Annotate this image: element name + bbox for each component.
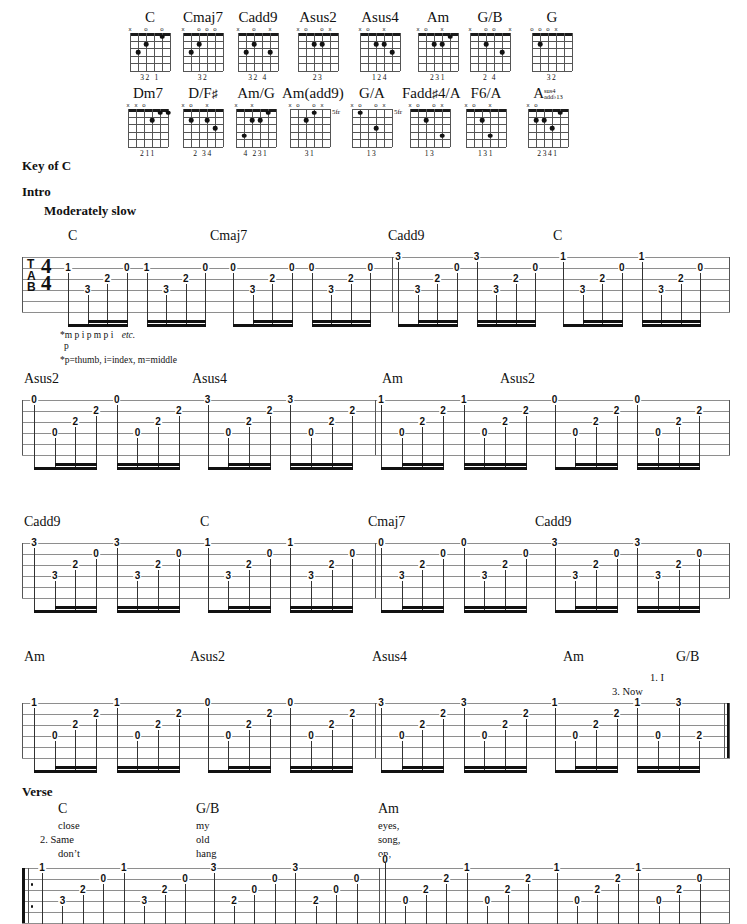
finger-dot xyxy=(534,118,539,123)
chord-diagram: G/Axoox5fr13 xyxy=(344,86,400,158)
tab-note: 0 xyxy=(573,896,581,906)
fingering-thumb: p xyxy=(64,341,69,351)
chord-diagram-name: C xyxy=(122,10,178,26)
finger-dot xyxy=(558,111,563,116)
tab-note: 2 xyxy=(103,274,111,284)
tab-note: 0 xyxy=(398,428,406,438)
tab-note: 2 xyxy=(175,406,183,416)
fingering-numbers: 32 4 xyxy=(230,73,286,82)
tab-note: 2 xyxy=(522,709,530,719)
chord-label: Cmaj7 xyxy=(210,228,247,244)
finger-dot xyxy=(500,50,505,55)
fingering-numbers: 2 34 xyxy=(175,149,231,158)
tab-note: 0 xyxy=(181,874,189,884)
tab-note: 0 xyxy=(271,874,279,884)
beam xyxy=(381,770,444,773)
finger-dot xyxy=(312,111,317,116)
tab-clef: TAB xyxy=(27,259,36,294)
tab-note: 1 xyxy=(559,252,567,262)
tab-note: 2 xyxy=(512,274,520,284)
tab-note: 0 xyxy=(308,263,316,273)
tab-note: 2 xyxy=(614,874,622,884)
tab-note: 2 xyxy=(79,885,87,895)
fingering-letters: *m p i p m p i xyxy=(60,330,113,340)
chord-diagram: Cxoo32 1 xyxy=(122,10,178,82)
tab-note: 3 xyxy=(51,571,59,581)
finger-dot xyxy=(320,42,325,47)
fretboard-grid xyxy=(410,109,450,147)
finger-dot xyxy=(432,42,437,47)
repeat-dot xyxy=(31,883,33,885)
tab-note: 0 xyxy=(353,874,361,884)
tab-note: 2 xyxy=(328,417,336,427)
tab-note: 0 xyxy=(332,885,340,895)
tab-note: 3 xyxy=(162,285,170,295)
tab-note: 0 xyxy=(51,731,59,741)
beam xyxy=(117,610,180,613)
tab-note: 2 xyxy=(245,417,253,427)
tab-note: 2 xyxy=(154,417,162,427)
tab-note: 0 xyxy=(481,428,489,438)
fretboard-grid xyxy=(183,33,223,71)
beam xyxy=(233,324,293,327)
tab-note: 1 xyxy=(30,698,38,708)
tab-note: 2 xyxy=(72,417,80,427)
tab-note: 2 xyxy=(524,874,532,884)
tab-note: 3 xyxy=(633,538,641,548)
beam xyxy=(290,610,353,613)
tab-note: 2 xyxy=(245,720,253,730)
tab-note: 2 xyxy=(613,709,621,719)
lyric-word: old xyxy=(196,834,209,845)
fingering-numbers: 32 1 xyxy=(122,73,178,82)
beam xyxy=(555,467,618,470)
tab-note: 0 xyxy=(224,731,232,741)
tab-note: 2 xyxy=(613,406,621,416)
chord-diagram-name: Asus4add♭13 xyxy=(520,86,576,102)
fingering-pattern: *m p i p m p i etc. xyxy=(60,330,135,340)
finger-dot xyxy=(542,118,547,123)
tab-note: 2 xyxy=(501,417,509,427)
tab-note: 2 xyxy=(347,274,355,284)
beam xyxy=(464,770,527,773)
tab-note: 2 xyxy=(422,885,430,895)
finger-dot xyxy=(390,50,395,55)
string-markers: xox xyxy=(410,26,466,33)
tab-note: 3 xyxy=(398,571,406,581)
tab-note: 1 xyxy=(38,863,46,873)
lyric-word: hang xyxy=(196,848,216,859)
string-markers: xox xyxy=(458,102,514,109)
tab-note: 0 xyxy=(697,263,705,273)
finger-dot xyxy=(258,118,263,123)
beam xyxy=(464,467,527,470)
chord-diagram-name: Fadd♯4/A xyxy=(402,86,458,102)
chord-label: Asus2 xyxy=(24,371,59,387)
tab-note: 3 xyxy=(394,252,402,262)
fretboard-grid xyxy=(360,33,400,71)
lyric-word: 2. Same xyxy=(40,834,74,845)
finger-dot xyxy=(440,133,445,138)
tab-note: 2 xyxy=(501,560,509,570)
tab-note: 0 xyxy=(618,263,626,273)
fret-position-label: 5fr xyxy=(394,108,402,116)
tab-note: 1 xyxy=(460,395,468,405)
finger-dot xyxy=(197,42,202,47)
tab-note: 0 xyxy=(398,731,406,741)
fingering-numbers: 131 xyxy=(458,149,514,158)
lyric-word: close xyxy=(58,820,80,831)
fingering-numbers: 2341 xyxy=(520,149,576,158)
tab-note: 0 xyxy=(286,698,294,708)
finger-dot xyxy=(205,118,210,123)
fingering-numbers: 2 4 xyxy=(462,73,518,82)
beam xyxy=(312,324,372,327)
tab-note: 0 xyxy=(655,896,663,906)
fingering-numbers: 211 xyxy=(120,149,176,158)
tab-note: 2 xyxy=(696,731,704,741)
tab-note: 0 xyxy=(532,263,540,273)
tab-note: 2 xyxy=(592,417,600,427)
tab-note: 3 xyxy=(291,863,299,873)
tab-note: 2 xyxy=(154,560,162,570)
tab-note: 2 xyxy=(592,720,600,730)
chord-diagram: G/Bxoox2 4 xyxy=(462,10,518,82)
barre-arc xyxy=(474,109,490,114)
fret-position-label: 5fr xyxy=(332,108,340,116)
